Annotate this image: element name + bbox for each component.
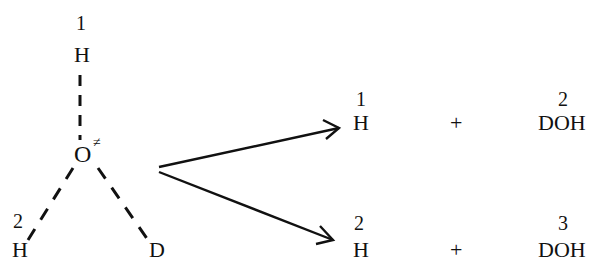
lower-product-h-index: 2	[354, 213, 364, 233]
lower-product-doh: DOH	[538, 239, 586, 261]
upper-product-doh: DOH	[538, 112, 586, 134]
label-top-h-index: 1	[76, 13, 86, 33]
atom-right-d: D	[149, 239, 165, 261]
atom-top-h: H	[74, 44, 90, 66]
lower-product-doh-index: 3	[558, 213, 568, 233]
upper-product-doh-index: 2	[558, 89, 568, 109]
upper-product-h-index: 1	[356, 89, 366, 109]
transition-state-symbol: ≠	[93, 136, 101, 150]
atom-left-h: H	[12, 239, 28, 261]
lower-plus-sign: +	[450, 239, 462, 261]
upper-product-h: H	[353, 112, 369, 134]
bond-and-arrow-layer	[0, 0, 613, 280]
lower-product-h: H	[353, 239, 369, 261]
atom-central-o: O	[74, 142, 91, 166]
arrow-upper-channel	[159, 120, 339, 167]
label-left-h-index: 2	[13, 211, 23, 231]
dashed-bond-o-left-h	[28, 168, 73, 240]
arrow-lower-channel	[159, 172, 333, 244]
dashed-bond-o-d	[98, 168, 148, 240]
upper-plus-sign: +	[450, 112, 462, 134]
